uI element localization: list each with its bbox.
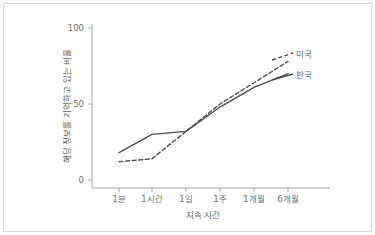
y-tick-label-50: 50: [73, 99, 84, 109]
x-tick-label-6months: 6개월: [277, 194, 298, 204]
y-tick-label-100: 100: [68, 23, 84, 33]
legend-swatch-korea: [272, 74, 293, 80]
x-tick-label-1day: 1일: [179, 194, 192, 204]
legend-swatch-usa: [272, 53, 293, 60]
series-line-usa: [119, 61, 288, 161]
y-tick-label-0: 0: [79, 175, 84, 185]
y-axis-title: 해당 정보를 기억하고 있는 비율: [62, 49, 72, 164]
x-tick-label-1week: 1주: [213, 194, 226, 204]
x-tick-label-1hour: 1시간: [141, 194, 162, 204]
legend-label-usa: 미국: [296, 49, 312, 59]
legend-label-korea: 한국: [296, 70, 312, 80]
x-tick-label-1month: 1개월: [243, 194, 264, 204]
line-chart: 100 50 0 1분 1시간 1일 1주 1개월 6개월 지속 시간 해당 정…: [0, 0, 375, 235]
chart-figure: 100 50 0 1분 1시간 1일 1주 1개월 6개월 지속 시간 해당 정…: [0, 0, 375, 235]
series-line-korea: [119, 74, 288, 153]
x-axis-title: 지속 시간: [186, 210, 221, 220]
x-tick-label-1min: 1분: [112, 194, 125, 204]
